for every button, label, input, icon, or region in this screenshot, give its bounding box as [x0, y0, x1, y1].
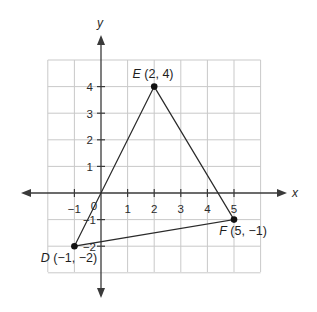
x-axis-right-arrow-icon: [277, 189, 287, 197]
point-d-label: D (−1, −2): [41, 251, 97, 265]
x-tick-label: −1: [68, 203, 81, 215]
point-d-name: D: [41, 251, 50, 265]
x-tick-label: 5: [231, 203, 237, 215]
y-tick-label: 2: [87, 134, 93, 146]
x-tick-label: 2: [151, 203, 157, 215]
point-f-label: F (5, −1): [219, 224, 267, 238]
y-tick-label: 4: [87, 81, 94, 93]
point-d-coords: (−1, −2): [50, 251, 97, 265]
coordinate-plane: x y −1 0 1 2 3 4 5 4 3 2 1 −1 −2 E (2, 4…: [0, 0, 317, 312]
x-tick-label: 3: [178, 203, 184, 215]
x-axis-label: x: [291, 186, 299, 200]
x-tick-label: 4: [204, 203, 211, 215]
point-e-label: E (2, 4): [133, 67, 174, 81]
y-axis-down-arrow-icon: [97, 288, 105, 298]
point-e: [151, 83, 158, 90]
y-tick-label: 1: [87, 161, 93, 173]
y-axis-up-arrow-icon: [97, 35, 105, 45]
x-tick-label: 1: [124, 203, 130, 215]
point-f-coords: (5, −1): [227, 224, 267, 238]
point-f: [231, 216, 238, 223]
point-e-coords: (2, 4): [141, 67, 174, 81]
y-tick-label: 3: [87, 108, 93, 120]
y-axis-label: y: [96, 16, 104, 30]
point-d: [71, 243, 78, 250]
x-axis-left-arrow-icon: [21, 189, 31, 197]
grid: [48, 60, 261, 273]
